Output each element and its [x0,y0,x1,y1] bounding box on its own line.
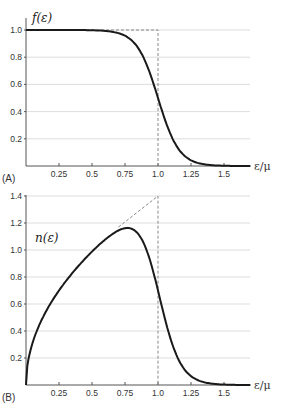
y-tick-label: 0.4 [10,107,22,117]
chart-panel-b: 0.20.40.60.81.01.21.40.250.50.751.01.251… [2,191,271,403]
x-tick-label: 0.75 [117,388,134,398]
chart-panel-a: 0.20.40.60.81.00.250.50.751.01.251.5f(ε)… [2,11,271,184]
y-tick-label: 0.4 [10,326,22,336]
y-tick-label: 1.4 [10,191,22,201]
panel-label: (B) [2,392,15,403]
y-axis-label: f(ε) [31,11,53,25]
y-axis-label: n(ε) [35,231,59,245]
distribution-curve [26,30,250,166]
x-axis-label: ε/μ [254,379,271,392]
y-tick-label: 0.6 [10,79,22,89]
x-tick-label: 0.75 [117,169,134,179]
x-tick-label: 1.0 [152,388,164,398]
x-axis-label: ε/μ [254,160,271,173]
x-tick-label: 1.5 [218,388,230,398]
x-tick-label: 0.5 [86,169,98,179]
x-tick-label: 0.25 [51,169,68,179]
y-tick-label: 0.8 [10,52,22,62]
x-tick-label: 1.0 [152,169,164,179]
distribution-curve [26,228,250,385]
panel-label: (A) [2,173,15,184]
x-tick-label: 0.5 [86,388,98,398]
x-tick-label: 1.25 [183,169,200,179]
x-tick-label: 1.25 [183,388,200,398]
y-tick-label: 1.0 [10,25,22,35]
figure: 0.20.40.60.81.00.250.50.751.01.251.5f(ε)… [0,0,281,415]
x-tick-label: 0.25 [51,388,68,398]
zero-temperature-dashed-line [26,30,158,166]
y-tick-label: 1.2 [10,218,22,228]
y-tick-label: 0.6 [10,299,22,309]
x-tick-label: 1.5 [218,169,230,179]
y-tick-label: 0.8 [10,272,22,282]
zero-temperature-dashed-line [118,196,158,385]
y-tick-label: 0.2 [10,353,22,363]
y-tick-label: 1.0 [10,245,22,255]
y-tick-label: 0.2 [10,134,22,144]
